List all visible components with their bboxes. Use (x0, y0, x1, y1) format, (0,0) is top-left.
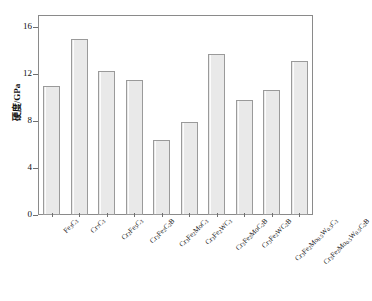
x-tick-mark (134, 213, 135, 217)
bar-Cr3Fe2WC2B (236, 100, 253, 215)
x-axis-labels: Fe3C3Cr7C3Cr2Fe5C3Cr3Fe2C2BCr3Fe2MoC3Cr3… (38, 217, 313, 301)
bar-Cr2Fe5C3 (98, 71, 115, 215)
y-tick-label: 8 (8, 116, 32, 125)
y-tick-label: 16 (8, 22, 32, 31)
bar-Cr3Fe2Mo0.5W0.5C3 (263, 90, 280, 215)
bar-Fe3C3 (43, 86, 60, 215)
y-tick-label: 12 (8, 69, 32, 78)
x-tick-mark (299, 213, 300, 217)
y-tick-label: 4 (8, 163, 32, 172)
bar-Cr3Fe2Mo0.5W0.5C2B (291, 61, 308, 215)
x-label-Cr3Fe2MoC3: Cr3Fe2MoC3 (178, 217, 210, 249)
x-label-Fe3C3: Fe3C3 (62, 217, 80, 235)
bar-series (38, 15, 313, 215)
x-tick-mark (244, 213, 245, 217)
bar-Cr3Fe2C2B (126, 80, 143, 215)
x-label-Cr2Fe5C3: Cr2Fe5C3 (120, 217, 145, 242)
bar-Cr3Fe2WC3 (181, 122, 198, 215)
bar-Cr7C3 (71, 39, 88, 215)
x-tick-mark (52, 213, 53, 217)
x-tick-mark (272, 213, 273, 217)
bar-Cr3Fe2MoC2B (208, 54, 225, 215)
x-tick-mark (162, 213, 163, 217)
y-tick-label: 0 (8, 210, 32, 219)
x-tick-mark (79, 213, 80, 217)
x-tick-mark (217, 213, 218, 217)
bar-Cr3Fe2MoC3 (153, 140, 170, 215)
x-tick-mark (189, 213, 190, 217)
x-label-Cr3Fe2C2B: Cr3Fe2C2B (149, 217, 178, 246)
x-label-Cr7C3: Cr7C3 (89, 217, 107, 235)
x-tick-mark (107, 213, 108, 217)
y-tick-mark (33, 215, 38, 216)
